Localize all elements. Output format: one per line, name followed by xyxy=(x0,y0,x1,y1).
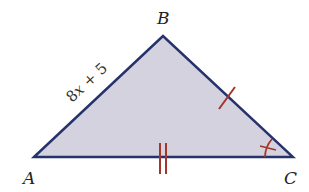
vertex-label-c: C xyxy=(284,168,297,188)
triangle-diagram: B A C 8x + 5 xyxy=(0,0,309,192)
vertex-label-a: A xyxy=(21,168,35,188)
vertex-label-b: B xyxy=(156,8,170,28)
